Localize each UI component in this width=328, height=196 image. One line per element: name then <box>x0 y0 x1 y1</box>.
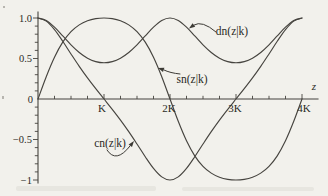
y-tick-label-1.0: 1.0 <box>19 13 32 24</box>
x-tick-label-4K: 4K <box>297 102 311 114</box>
sn-callout-arrow <box>164 70 180 74</box>
sn-curve-label: sn(z|k) <box>176 73 207 86</box>
y-tick-label-0.5: 0.5 <box>19 53 32 64</box>
x-axis-title-z: z <box>311 80 317 92</box>
x-tick-label-3K: 3K <box>228 102 242 114</box>
y-tick-label-0: 0 <box>28 94 33 105</box>
y-tick-label-m1: −1 <box>21 175 32 186</box>
curve-dn <box>38 18 302 63</box>
scanned-figure: 1.0 0.5 0 −0.5 −1 K 2K 3K 4K z dn(z|k) s… <box>0 0 328 196</box>
elliptic-functions-plot: 1.0 0.5 0 −0.5 −1 K 2K 3K 4K z dn(z|k) s… <box>0 0 328 196</box>
x-tick-label-2K: 2K <box>162 102 176 114</box>
curve-callouts: dn(z|k) sn(z|k) cn(z|k) <box>94 23 248 156</box>
y-tick-label-m0.5: −0.5 <box>13 134 32 145</box>
cn-curve-label: cn(z|k) <box>94 137 126 150</box>
dn-arrowhead-icon <box>189 23 195 28</box>
dn-callout-arrow <box>194 24 216 32</box>
x-tick-label-K: K <box>98 102 106 114</box>
dn-curve-label: dn(z|k) <box>216 25 248 38</box>
